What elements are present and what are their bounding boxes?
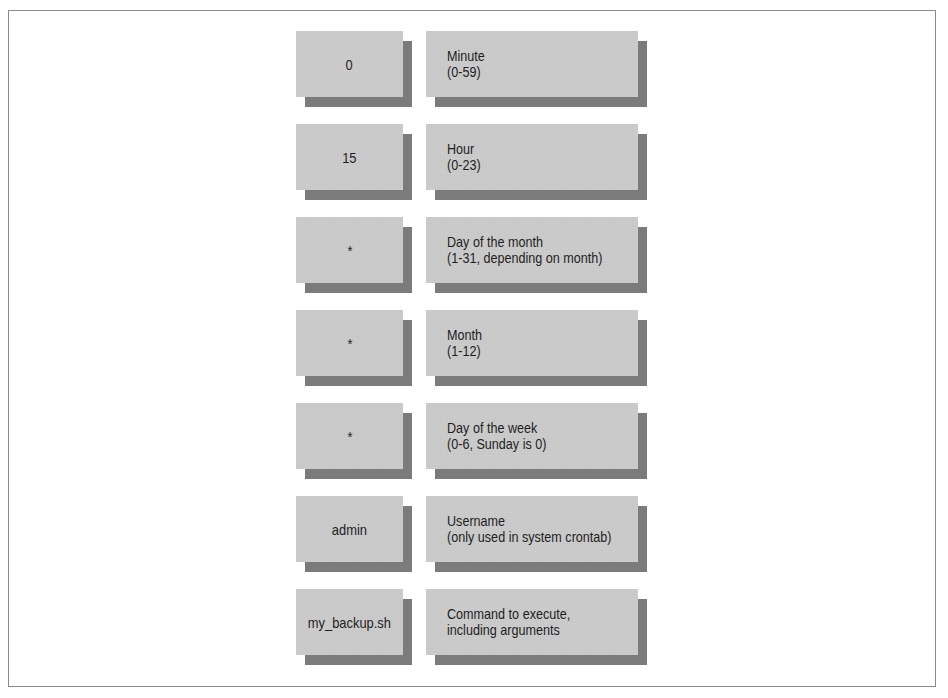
field-name: Command to execute,	[447, 606, 570, 622]
field-description-box: Command to execute, including arguments	[426, 589, 638, 655]
field-range: including arguments	[447, 622, 570, 638]
crontab-field-row-hour: 15 Hour (0-23)	[0, 124, 948, 190]
field-value: *	[347, 242, 352, 259]
field-description: Month (1-12)	[447, 327, 482, 359]
field-description: Minute (0-59)	[447, 48, 485, 80]
field-description-box: Month (1-12)	[426, 310, 638, 376]
field-value-box: 15	[296, 124, 403, 190]
crontab-field-row-month: * Month (1-12)	[0, 310, 948, 376]
field-value: 0	[346, 56, 353, 73]
field-range: (0-59)	[447, 64, 485, 80]
crontab-field-row-command: my_backup.sh Command to execute, includi…	[0, 589, 948, 655]
field-description: Command to execute, including arguments	[447, 606, 570, 638]
crontab-field-row-day-of-week: * Day of the week (0-6, Sunday is 0)	[0, 403, 948, 469]
field-name: Hour	[447, 141, 481, 157]
field-description-box: Minute (0-59)	[426, 31, 638, 97]
field-description-box: Username (only used in system crontab)	[426, 496, 638, 562]
field-value-box: admin	[296, 496, 403, 562]
field-name: Day of the month	[447, 234, 603, 250]
field-range: (only used in system crontab)	[447, 529, 612, 545]
field-value-box: *	[296, 310, 403, 376]
field-value-box: *	[296, 217, 403, 283]
crontab-field-row-username: admin Username (only used in system cron…	[0, 496, 948, 562]
field-range: (0-6, Sunday is 0)	[447, 436, 546, 452]
field-name: Day of the week	[447, 420, 546, 436]
crontab-field-row-minute: 0 Minute (0-59)	[0, 31, 948, 97]
field-value: my_backup.sh	[308, 614, 391, 631]
field-value-box: 0	[296, 31, 403, 97]
field-range: (1-31, depending on month)	[447, 250, 603, 266]
field-name: Username	[447, 513, 612, 529]
field-value-box: *	[296, 403, 403, 469]
field-range: (0-23)	[447, 157, 481, 173]
field-value: admin	[332, 521, 367, 538]
field-value: *	[347, 428, 352, 445]
field-value: 15	[342, 149, 356, 166]
field-description: Day of the month (1-31, depending on mon…	[447, 234, 603, 266]
field-description-box: Day of the week (0-6, Sunday is 0)	[426, 403, 638, 469]
crontab-field-row-day-of-month: * Day of the month (1-31, depending on m…	[0, 217, 948, 283]
field-description-box: Hour (0-23)	[426, 124, 638, 190]
field-description: Username (only used in system crontab)	[447, 513, 612, 545]
field-description: Day of the week (0-6, Sunday is 0)	[447, 420, 546, 452]
field-value-box: my_backup.sh	[296, 589, 403, 655]
field-name: Minute	[447, 48, 485, 64]
field-range: (1-12)	[447, 343, 482, 359]
field-value: *	[347, 335, 352, 352]
field-description: Hour (0-23)	[447, 141, 481, 173]
field-name: Month	[447, 327, 482, 343]
field-description-box: Day of the month (1-31, depending on mon…	[426, 217, 638, 283]
